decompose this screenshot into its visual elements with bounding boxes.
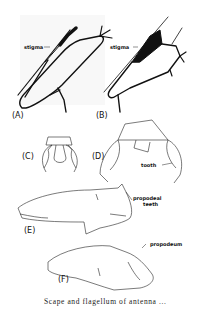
panel-label-c: (C): [22, 153, 34, 161]
panel-label-f: (F): [58, 276, 69, 284]
mandibles-d-drawing: [100, 120, 182, 183]
propodeum-label: propodeum: [150, 242, 182, 247]
tooth-label: tooth: [141, 163, 156, 168]
wing-b-drawing: [104, 17, 186, 112]
panel-label-a: (A): [12, 112, 24, 120]
stigma-label-a: stigma: [24, 45, 43, 50]
panel-label-b: (B): [96, 112, 108, 120]
figure-caption: Scape and flagellum of antenna ...: [44, 297, 166, 306]
stigma-label-b: stigma: [110, 45, 129, 50]
mandibles-c-drawing: [42, 137, 77, 172]
propodeal-label-line2: teeth: [143, 202, 158, 207]
wing-a-drawing: [18, 15, 112, 112]
panel-label-d: (D): [92, 153, 104, 161]
panel-label-e: (E): [24, 227, 35, 235]
